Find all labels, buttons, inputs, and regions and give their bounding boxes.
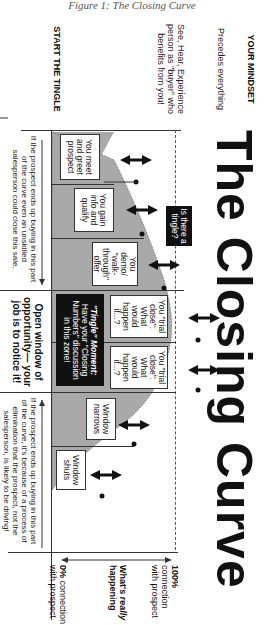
axis-label-0: 0% connection with prospect [48, 565, 68, 625]
axis-middle-tail: happening [108, 565, 118, 611]
axis-middle-italic: really [118, 597, 128, 621]
note-early-curve: If the prospect ends up buying in this p… [11, 134, 38, 284]
axis-label-middle: What's really happening [108, 565, 128, 625]
figure-caption: Figure 1: The Closing Curve [0, 0, 264, 14]
note-late-curve: If the prospect ends up buying in this p… [2, 396, 38, 546]
axis-label-100: 100% connection with prospect [150, 565, 180, 625]
axis-100-text: connection with prospect [150, 565, 170, 618]
note-open-window: Open window of opportunity— your job is … [11, 292, 44, 392]
axis-0-value: 0% [58, 565, 68, 578]
axis-100-value: 100% [170, 565, 180, 588]
closing-curve-diagram: The Closing Curve YOUR MINDSET Precedes … [0, 20, 264, 620]
axis-middle-bold: What's [118, 565, 128, 594]
